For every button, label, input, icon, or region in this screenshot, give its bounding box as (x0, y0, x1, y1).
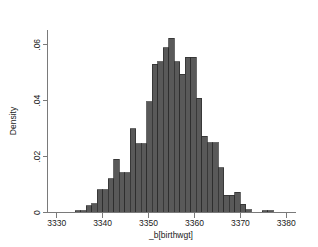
x-axis-ticks: 333033403350336033703380 (47, 213, 296, 229)
histogram-bar (174, 62, 180, 213)
y-tick-label: .06 (32, 39, 42, 51)
histogram-bar (207, 143, 213, 213)
histogram-bar (180, 74, 186, 212)
histogram-bars (75, 38, 273, 212)
histogram-bar (202, 136, 208, 212)
histogram-bar (218, 168, 224, 213)
x-tick-label: 3340 (93, 218, 112, 228)
histogram-bar (108, 179, 114, 213)
histogram-bar (97, 190, 103, 213)
histogram-bar (125, 173, 131, 213)
histogram-bar (141, 144, 147, 213)
histogram-bar (196, 98, 202, 212)
histogram-bar (185, 57, 191, 212)
x-tick-label: 3370 (231, 218, 250, 228)
histogram-bar (114, 159, 120, 212)
y-tick-label: .04 (32, 95, 42, 107)
x-tick-label: 3380 (277, 218, 296, 228)
histogram-bar (213, 143, 219, 213)
histogram-bar (130, 129, 136, 213)
histogram-bar (92, 204, 98, 213)
y-axis-title: Density (8, 106, 18, 135)
histogram-bar (240, 204, 246, 212)
histogram-bar (169, 38, 175, 212)
histogram-bar (103, 190, 109, 213)
y-tick-label: .02 (32, 150, 42, 162)
x-axis-title: _b[birthwgt] (148, 230, 193, 240)
y-axis-ticks: 0.02.04.06 (32, 39, 48, 215)
histogram-bar (229, 195, 235, 212)
histogram-bar (86, 206, 92, 213)
x-tick-label: 3330 (47, 218, 66, 228)
histogram-bar (235, 192, 241, 212)
histogram-bar (224, 195, 230, 212)
plot-area: 333033403350336033703380 0.02.04.06 _b[b… (0, 0, 318, 247)
histogram-bar (119, 173, 125, 213)
histogram-bar (163, 48, 169, 213)
x-tick-label: 3350 (139, 218, 158, 228)
histogram-bar (191, 57, 197, 212)
y-tick-label: 0 (32, 210, 42, 215)
histogram-bar (158, 62, 164, 213)
histogram-bar (147, 102, 153, 213)
histogram-bar (152, 64, 158, 212)
histogram-chart: 333033403350336033703380 0.02.04.06 _b[b… (0, 0, 318, 247)
x-tick-label: 3360 (185, 218, 204, 228)
histogram-bar (136, 144, 142, 213)
